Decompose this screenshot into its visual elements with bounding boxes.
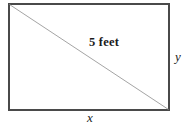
hypotenuse-label: 5 feet [86,35,122,51]
geometry-figure: 5 feet y x [0,0,188,128]
vertical-side-label: y [175,50,181,63]
figure-canvas [0,0,188,128]
horizontal-side-label: x [87,111,93,124]
